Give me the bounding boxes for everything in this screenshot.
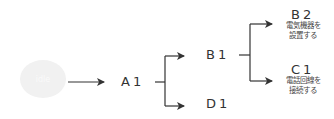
node-b2: B2	[291, 8, 314, 21]
node-a1: A1	[121, 75, 144, 88]
node-c1-desc-line1: 電話回線を	[278, 76, 328, 86]
node-c1: C1	[291, 63, 314, 76]
node-c1-desc-line2: 接続する	[278, 86, 328, 96]
connector-lines	[0, 0, 334, 119]
node-b1: B1	[206, 48, 229, 61]
node-b2-desc-line2: 設置する	[278, 31, 328, 41]
node-b2-desc-line1: 電気機器を	[278, 21, 328, 31]
node-d1: D1	[206, 97, 230, 110]
